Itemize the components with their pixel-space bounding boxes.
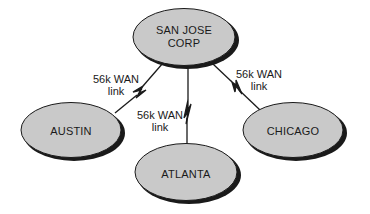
link-label-atlanta: 56k WAN link (137, 109, 183, 133)
link-atlanta (184, 66, 191, 146)
link-label-line2: link (93, 85, 139, 97)
link-label-line2: link (137, 121, 183, 133)
link-label-line1: 56k WAN (93, 73, 139, 85)
link-label-line1: 56k WAN (137, 109, 183, 121)
link-label-chicago: 56k WAN link (236, 68, 282, 92)
node-label-line1: SAN JOSE (156, 24, 212, 37)
link-label-line2: link (236, 80, 282, 92)
node-label-austin: AUSTIN (50, 125, 92, 138)
node-label-san-jose-corp: SAN JOSE CORP (156, 24, 212, 50)
node-label-line2: CORP (156, 37, 212, 50)
node-label-atlanta: ATLANTA (161, 168, 210, 181)
link-label-line1: 56k WAN (236, 68, 282, 80)
node-label-chicago: CHICAGO (267, 125, 320, 138)
link-label-austin: 56k WAN link (93, 73, 139, 97)
